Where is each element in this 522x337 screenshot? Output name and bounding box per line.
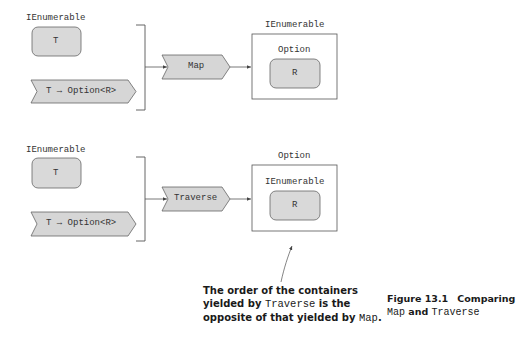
caption-code-map: Map xyxy=(387,307,405,318)
caption-code-traverse: Traverse xyxy=(432,307,480,318)
output-outer-label-top: IEnumerable xyxy=(265,20,324,30)
function-label-top: T → Option<R> xyxy=(46,86,116,96)
annotation-code-traverse: Traverse xyxy=(265,298,315,310)
caption-title-prefix: Comparing xyxy=(457,293,515,304)
bracket-top xyxy=(136,25,145,110)
input-container-label-top: IEnumerable xyxy=(26,13,85,23)
figure-number: Figure 13.1 xyxy=(387,293,448,304)
output-outer-label-bottom: Option xyxy=(278,151,310,161)
operation-label-bottom: Traverse xyxy=(174,193,217,203)
output-inner-label-top: Option xyxy=(278,45,310,55)
annotation-part3: . xyxy=(378,312,382,323)
figure-caption: Figure 13.1 ComparingMap and Traverse xyxy=(387,292,517,319)
annotation-text: The order of the containers yielded by T… xyxy=(203,284,393,325)
output-inner-label-bottom: IEnumerable xyxy=(265,177,324,187)
annotation-code-map: Map xyxy=(359,312,378,324)
bracket-bottom xyxy=(136,157,145,241)
operation-label-top: Map xyxy=(188,61,204,71)
function-label-bottom: T → Option<R> xyxy=(46,218,116,228)
output-element-label-top: R xyxy=(292,68,297,78)
input-container-label-bottom: IEnumerable xyxy=(26,145,85,155)
input-element-label-bottom: T xyxy=(53,168,58,178)
annotation-arrow xyxy=(281,246,292,282)
output-element-label-bottom: R xyxy=(292,200,297,210)
input-element-label-top: T xyxy=(53,36,58,46)
caption-conjunction: and xyxy=(405,306,432,317)
